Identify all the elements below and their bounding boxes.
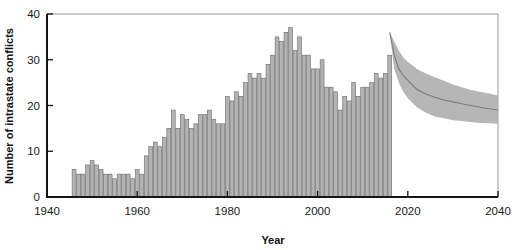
bar — [185, 119, 189, 197]
bar — [307, 55, 311, 197]
bar — [338, 110, 342, 197]
bar — [216, 124, 220, 197]
bar — [334, 92, 338, 197]
x-tick-label: 1980 — [215, 205, 241, 217]
bar — [271, 55, 275, 197]
bar — [383, 73, 387, 197]
y-tick-label: 30 — [27, 54, 40, 66]
bar — [370, 83, 374, 197]
bar — [298, 37, 302, 197]
bar — [198, 115, 202, 197]
bar — [293, 51, 297, 197]
bar — [275, 37, 279, 197]
bar — [374, 73, 378, 197]
bar — [320, 60, 324, 197]
bar — [194, 124, 198, 197]
bar — [257, 73, 261, 197]
bar — [230, 101, 234, 197]
x-tick-label: 2040 — [485, 205, 511, 217]
bar — [104, 174, 108, 197]
bar — [212, 119, 216, 197]
x-tick-label: 1960 — [124, 205, 150, 217]
bar — [126, 174, 130, 197]
bar — [248, 73, 252, 197]
bar — [158, 147, 162, 197]
bar — [140, 174, 144, 197]
bar — [113, 179, 117, 197]
bar — [203, 115, 207, 197]
bar — [325, 87, 329, 197]
y-tick-label: 20 — [27, 100, 40, 112]
bar-series — [72, 28, 392, 197]
bar — [99, 170, 103, 197]
x-tick-label: 1940 — [34, 205, 60, 217]
bar — [316, 69, 320, 197]
bar — [90, 160, 94, 197]
bar — [289, 28, 293, 197]
bar — [176, 128, 180, 197]
y-axis-label: Number of intrastate conflicts — [3, 28, 15, 184]
bar — [266, 64, 270, 197]
bar — [239, 96, 243, 197]
bar — [207, 110, 211, 197]
bar — [72, 170, 76, 197]
bar — [167, 128, 171, 197]
bar — [361, 87, 365, 197]
bar — [149, 147, 153, 197]
projection-fan — [390, 32, 498, 124]
bar — [171, 110, 175, 197]
bar — [302, 55, 306, 197]
y-tick-label: 10 — [27, 145, 40, 157]
bar — [262, 78, 266, 197]
bar — [329, 87, 333, 197]
bar — [117, 174, 121, 197]
bar — [311, 69, 315, 197]
bar — [388, 55, 392, 197]
bar — [153, 142, 157, 197]
y-tick-label: 40 — [27, 8, 40, 20]
bar — [234, 92, 238, 197]
x-axis-label: Year — [261, 234, 285, 246]
bar — [180, 115, 184, 197]
bar — [131, 179, 135, 197]
bar — [86, 165, 90, 197]
bar — [81, 174, 85, 197]
y-tick-labels: 010203040 — [27, 8, 40, 203]
bar — [225, 96, 229, 197]
bar — [379, 78, 383, 197]
bar — [108, 174, 112, 197]
x-tick-label: 2000 — [305, 205, 331, 217]
bar — [365, 87, 369, 197]
bar — [352, 83, 356, 197]
bar — [77, 174, 81, 197]
bar — [144, 156, 148, 197]
bar — [356, 96, 360, 197]
bar — [244, 83, 248, 197]
bar — [189, 128, 193, 197]
bar — [284, 32, 288, 197]
bar — [280, 41, 284, 197]
intrastate-conflicts-chart: 194019601980200020202040 010203040 Year … — [0, 0, 518, 250]
y-tick-label: 0 — [34, 191, 40, 203]
bar — [343, 96, 347, 197]
bar — [253, 78, 257, 197]
bar — [122, 174, 126, 197]
bar — [221, 124, 225, 197]
bar — [95, 165, 99, 197]
bar — [162, 138, 166, 197]
x-tick-label: 2020 — [395, 205, 421, 217]
bar — [347, 101, 351, 197]
chart-container: 194019601980200020202040 010203040 Year … — [0, 0, 518, 250]
x-tick-labels: 194019601980200020202040 — [34, 205, 511, 217]
